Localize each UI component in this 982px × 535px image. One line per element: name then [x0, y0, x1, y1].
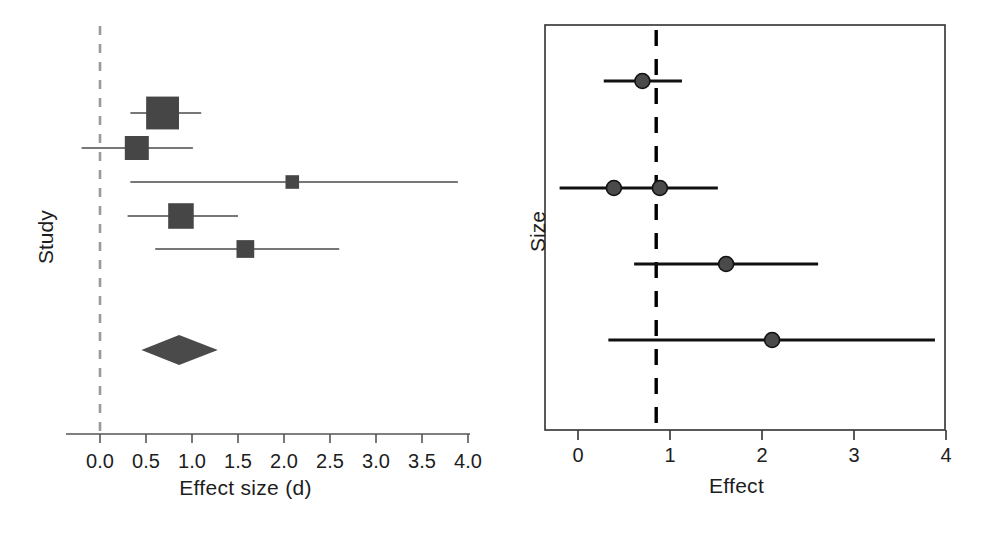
left-y-axis-label: Study	[34, 210, 58, 264]
effect-size-dot	[606, 181, 621, 196]
left-x-tick-label: 0.5	[132, 450, 160, 473]
right-x-tick-label: 2	[756, 444, 767, 467]
right-plot-frame	[545, 25, 945, 430]
left-study-row	[130, 97, 201, 130]
right-x-tick-label: 3	[848, 444, 859, 467]
left-x-tick-label: 4.0	[454, 450, 482, 473]
left-study-row	[130, 175, 458, 189]
left-x-tick-label: 0.0	[86, 450, 114, 473]
effect-size-square	[168, 203, 194, 229]
effect-size-square	[285, 175, 299, 189]
left-x-tick-label: 3.0	[362, 450, 390, 473]
effect-size-square	[125, 136, 149, 160]
left-x-tick-label: 1.5	[224, 450, 252, 473]
panel-right-size	[491, 0, 982, 535]
effect-size-dot	[765, 333, 780, 348]
right-study-row	[560, 181, 718, 196]
left-x-tick-label: 1.0	[178, 450, 206, 473]
effect-size-square	[146, 97, 179, 130]
summary-diamond	[141, 335, 217, 365]
effect-size-dot	[719, 257, 734, 272]
effect-size-square	[236, 240, 254, 258]
left-study-row	[128, 203, 238, 229]
left-x-axis-label: Effect size (d)	[0, 476, 491, 500]
right-plot-canvas	[491, 0, 982, 535]
left-study-row	[155, 240, 339, 258]
right-x-tick-label: 4	[940, 444, 951, 467]
left-x-tick-label: 2.5	[316, 450, 344, 473]
right-x-tick-label: 1	[664, 444, 675, 467]
right-y-axis-label: Size	[526, 211, 550, 252]
effect-size-dot-secondary	[652, 181, 667, 196]
right-study-row	[634, 257, 818, 272]
right-x-axis-label: Effect	[491, 474, 982, 498]
left-x-tick-label: 3.5	[408, 450, 436, 473]
left-x-tick-label: 2.0	[270, 450, 298, 473]
left-study-row	[82, 136, 193, 160]
right-study-row	[604, 74, 682, 89]
right-x-tick-label: 0	[572, 444, 583, 467]
forest-plot-figure: Study Effect size (d) Size Effect 0.00.5…	[0, 0, 982, 535]
effect-size-dot	[635, 74, 650, 89]
